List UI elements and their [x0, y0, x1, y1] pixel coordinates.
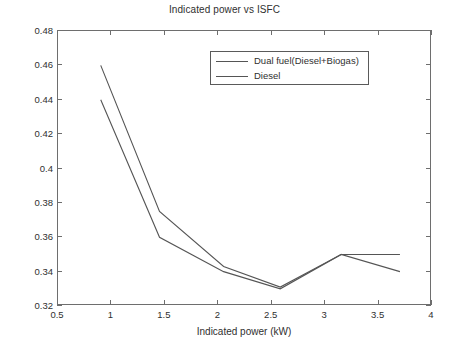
x-tick-mark [378, 300, 379, 305]
chart-title: Indicated power vs ISFC [0, 4, 449, 15]
y-tick-mark-right [426, 168, 431, 169]
x-tick-mark-top [57, 30, 58, 35]
y-tick-mark [57, 99, 62, 100]
x-tick-mark [164, 300, 165, 305]
x-tick-label: 0.5 [50, 309, 63, 320]
x-tick-mark [324, 300, 325, 305]
y-tick-mark-right [426, 64, 431, 65]
x-axis-label: Indicated power (kW) [57, 326, 431, 337]
y-tick-label: 0.38 [7, 196, 53, 207]
chart-figure: Indicated power vs ISFC 0.320.340.360.38… [0, 0, 449, 349]
legend-item-dual-fuel: Dual fuel(Diesel+Biogas) [216, 54, 359, 68]
x-tick-mark-top [164, 30, 165, 35]
x-tick-mark [431, 300, 432, 305]
series-line-dual-fuel [101, 65, 400, 287]
legend-item-diesel: Diesel [216, 69, 280, 83]
y-tick-mark-right [426, 202, 431, 203]
y-tick-mark [57, 305, 62, 306]
y-tick-mark-right [426, 305, 431, 306]
y-tick-mark-right [426, 236, 431, 237]
y-tick-mark-right [426, 133, 431, 134]
x-tick-label: 2.5 [264, 309, 277, 320]
x-tick-mark-top [271, 30, 272, 35]
x-tick-mark-top [324, 30, 325, 35]
x-tick-label: 2 [215, 309, 220, 320]
y-tick-label: 0.46 [7, 59, 53, 70]
y-tick-mark [57, 236, 62, 237]
y-tick-label: 0.48 [7, 25, 53, 36]
y-tick-mark [57, 271, 62, 272]
y-tick-mark [57, 202, 62, 203]
x-tick-mark [57, 300, 58, 305]
y-tick-mark [57, 168, 62, 169]
y-tick-label: 0.34 [7, 265, 53, 276]
x-tick-mark-top [110, 30, 111, 35]
x-tick-mark [271, 300, 272, 305]
y-tick-label: 0.36 [7, 231, 53, 242]
legend-item-label: Dual fuel(Diesel+Biogas) [254, 56, 359, 66]
x-tick-mark-top [378, 30, 379, 35]
x-tick-label: 4 [428, 309, 433, 320]
y-tick-mark [57, 64, 62, 65]
legend-line-icon [216, 76, 248, 77]
x-tick-mark [110, 300, 111, 305]
y-tick-mark-right [426, 99, 431, 100]
x-tick-mark-top [431, 30, 432, 35]
legend-line-icon [216, 61, 248, 62]
x-tick-label: 1 [108, 309, 113, 320]
y-tick-label: 0.44 [7, 93, 53, 104]
x-tick-label: 1.5 [157, 309, 170, 320]
series-line-diesel [101, 100, 400, 289]
y-tick-label: 0.42 [7, 128, 53, 139]
x-tick-mark-top [217, 30, 218, 35]
x-tick-label: 3.5 [371, 309, 384, 320]
y-tick-label: 0.4 [7, 162, 53, 173]
chart-legend: Dual fuel(Diesel+Biogas) Diesel [210, 51, 369, 85]
x-tick-label: 3 [321, 309, 326, 320]
y-tick-mark [57, 133, 62, 134]
x-tick-mark [217, 300, 218, 305]
y-tick-label: 0.32 [7, 300, 53, 311]
y-tick-mark-right [426, 271, 431, 272]
legend-item-label: Diesel [254, 71, 280, 81]
